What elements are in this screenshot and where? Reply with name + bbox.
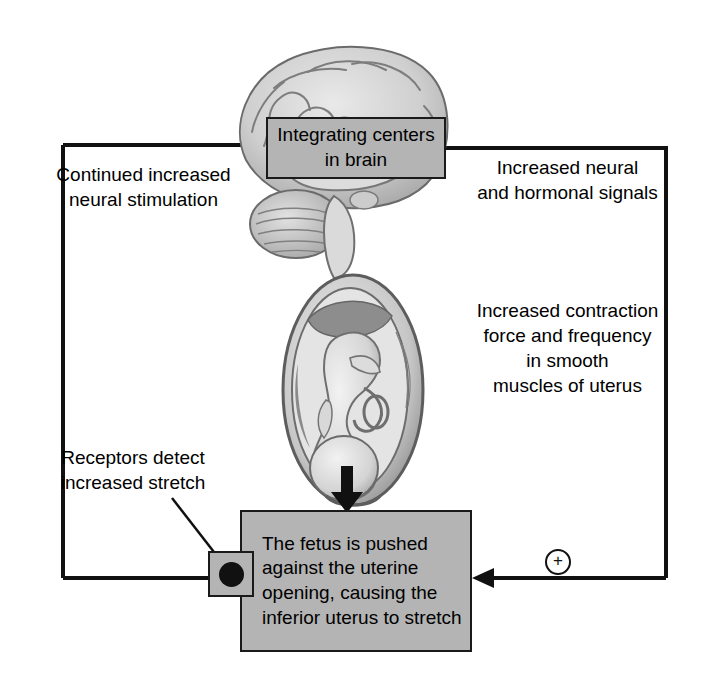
fetus-stretch-box[interactable]: The fetus is pushed against the uterine … [240,510,472,652]
receptors-detect-label: Receptors detect increased stretch [28,445,238,495]
fetus-stretch-label: The fetus is pushed against the uterine … [262,532,470,631]
downward-pressure-arrow [330,466,364,514]
integrating-centers-label: Integrating centers in brain [268,123,444,172]
continued-stimulation-label: Continued increased neural stimulation [36,162,251,212]
integrating-centers-box[interactable]: Integrating centers in brain [266,117,446,179]
increased-contraction-label: Increased contraction force and frequenc… [455,298,680,398]
positive-feedback-plus-icon: + [545,549,571,575]
increased-signals-label: Increased neural and hormonal signals [455,155,680,205]
receptor-dot-icon [219,562,244,587]
feedback-loop-diagram: Integrating centers in brain The fetus i… [0,0,708,686]
